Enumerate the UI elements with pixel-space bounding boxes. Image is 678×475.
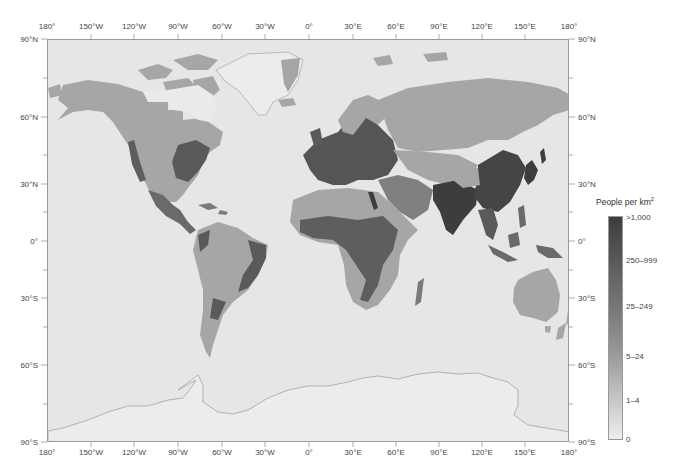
antarctica bbox=[48, 372, 569, 442]
japan bbox=[524, 148, 546, 185]
lon-label-bottom: 180° bbox=[39, 448, 56, 457]
map-canvas bbox=[48, 40, 569, 442]
lon-label-top: 0° bbox=[305, 22, 313, 31]
lon-label-bottom: 60°E bbox=[387, 448, 404, 457]
lon-label-bottom: 60°W bbox=[212, 448, 232, 457]
lat-label-right: 60°S bbox=[578, 361, 595, 370]
australia bbox=[513, 268, 560, 322]
lon-label-top: 150°W bbox=[79, 22, 103, 31]
lat-label-left: 0° bbox=[0, 237, 38, 246]
indonesia bbox=[488, 205, 563, 262]
lon-label-top: 30°W bbox=[255, 22, 275, 31]
lon-label-top: 180° bbox=[561, 22, 578, 31]
caribbean bbox=[198, 203, 228, 215]
lon-label-bottom: 0° bbox=[305, 448, 313, 457]
lon-label-top: 120°E bbox=[471, 22, 493, 31]
legend-label: 250–999 bbox=[626, 256, 657, 265]
lon-label-bottom: 90°W bbox=[168, 448, 188, 457]
lat-label-right: 60°N bbox=[578, 113, 596, 122]
russia bbox=[378, 78, 569, 152]
legend-label: 1–4 bbox=[626, 396, 639, 405]
legend-title: People per km2 bbox=[596, 196, 654, 207]
lon-label-top: 150°E bbox=[514, 22, 536, 31]
legend-label: 5–24 bbox=[626, 352, 644, 361]
lat-label-right: 0° bbox=[578, 237, 586, 246]
madagascar bbox=[415, 278, 424, 306]
lon-label-top: 180° bbox=[39, 22, 56, 31]
lon-label-bottom: 120°E bbox=[471, 448, 493, 457]
east-asia bbox=[473, 150, 526, 212]
lon-label-top: 60°W bbox=[212, 22, 232, 31]
southeast-asia bbox=[478, 208, 498, 240]
lon-label-top: 30°E bbox=[344, 22, 361, 31]
density-legend: People per km2 >1,000 250–999 25–249 5–2… bbox=[596, 196, 678, 446]
legend-title-superscript: 2 bbox=[651, 196, 654, 202]
lat-label-right: 90°S bbox=[578, 438, 595, 447]
lon-label-top: 60°E bbox=[387, 22, 404, 31]
lat-label-left: 90°N bbox=[0, 35, 38, 44]
legend-label: 25–249 bbox=[626, 302, 653, 311]
lon-label-top: 90°W bbox=[168, 22, 188, 31]
lon-label-bottom: 30°W bbox=[255, 448, 275, 457]
lon-label-top: 90°E bbox=[430, 22, 447, 31]
lat-label-left: 30°N bbox=[0, 180, 38, 189]
lon-label-bottom: 120°W bbox=[122, 448, 146, 457]
india bbox=[433, 180, 478, 235]
lat-label-right: 90°N bbox=[578, 35, 596, 44]
lon-label-bottom: 150°E bbox=[514, 448, 536, 457]
legend-label: 0 bbox=[626, 435, 630, 444]
legend-title-text: People per km bbox=[596, 197, 651, 207]
lat-label-right: 30°N bbox=[578, 180, 596, 189]
lon-label-bottom: 180° bbox=[561, 448, 578, 457]
lon-label-bottom: 150°W bbox=[79, 448, 103, 457]
lat-label-left: 90°S bbox=[0, 438, 38, 447]
iceland bbox=[278, 98, 296, 107]
legend-label: >1,000 bbox=[626, 213, 651, 222]
lat-label-left: 60°S bbox=[0, 361, 38, 370]
world-map bbox=[47, 39, 569, 442]
tasmania bbox=[545, 326, 551, 333]
lat-label-left: 30°S bbox=[0, 294, 38, 303]
legend-color-ramp bbox=[608, 216, 623, 440]
lon-label-bottom: 30°E bbox=[344, 448, 361, 457]
lon-label-top: 120°W bbox=[122, 22, 146, 31]
new-zealand bbox=[556, 308, 569, 340]
eastern-us-dense bbox=[172, 140, 210, 182]
lat-label-right: 30°S bbox=[578, 294, 595, 303]
lon-label-bottom: 90°E bbox=[430, 448, 447, 457]
british-isles bbox=[310, 128, 323, 146]
lat-label-left: 60°N bbox=[0, 113, 38, 122]
